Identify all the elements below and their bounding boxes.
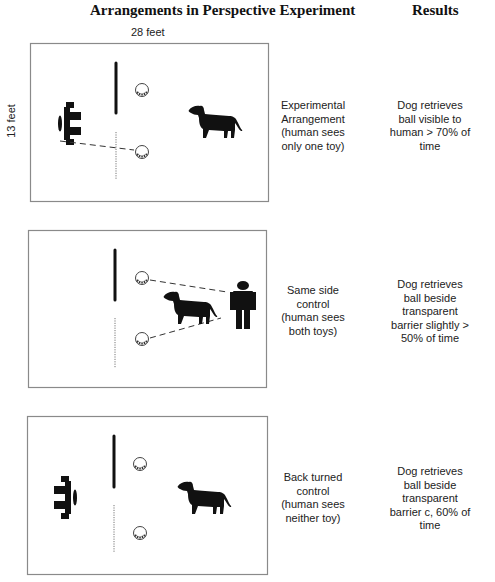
result-line: time (382, 519, 478, 533)
condition-line: control (270, 485, 356, 499)
result-line: barrier slightly > (382, 319, 478, 333)
panel-experimental-arrangement (31, 44, 269, 202)
condition-line: Same side (270, 284, 356, 298)
result-line: Dog retrieves (382, 465, 478, 479)
result-line: Dog retrieves (382, 278, 478, 292)
condition-line: both toys) (270, 325, 356, 339)
result-line: ball beside (382, 292, 478, 306)
condition-label-same-side: Same side control (human sees both toys) (270, 284, 356, 338)
result-line: ball beside (382, 479, 478, 493)
condition-label-experimental: Experimental Arrangement (human sees onl… (270, 99, 356, 153)
result-label-experimental: Dog retrieves ball visible to human > 70… (382, 99, 478, 153)
result-line: time (382, 140, 478, 154)
condition-line: control (270, 298, 356, 312)
condition-line: Experimental (270, 99, 356, 113)
result-label-back-turned: Dog retrieves ball beside transparent ba… (382, 465, 478, 533)
condition-label-back-turned: Back turned control (human sees neither … (270, 471, 356, 525)
condition-line: (human sees (270, 311, 356, 325)
condition-line: neither toy) (270, 512, 356, 526)
panel-same-side-control (29, 231, 267, 388)
condition-line: (human sees (270, 126, 356, 140)
panel-back-turned-control (28, 417, 268, 575)
result-line: 50% of time (382, 332, 478, 346)
result-line: transparent (382, 305, 478, 319)
result-line: ball visible to (382, 113, 478, 127)
result-line: human > 70% of (382, 126, 478, 140)
result-line: transparent (382, 492, 478, 506)
result-label-same-side: Dog retrieves ball beside transparent ba… (382, 278, 478, 346)
result-line: Dog retrieves (382, 99, 478, 113)
condition-line: Arrangement (270, 113, 356, 127)
condition-line: (human sees (270, 498, 356, 512)
result-line: barrier c, 60% of (382, 506, 478, 520)
condition-line: only one toy) (270, 140, 356, 154)
condition-line: Back turned (270, 471, 356, 485)
